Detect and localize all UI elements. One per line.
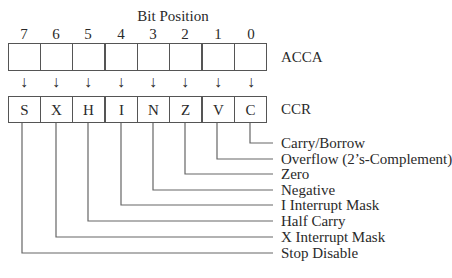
flag-label-zero: Zero [281,167,309,182]
flag-label-carry-borrow: Carry/Borrow [281,136,365,151]
leader-line-z [185,123,273,174]
flag-label-half-carry: Half Carry [281,214,346,229]
leader-line-v [217,123,273,159]
leader-line-h [88,123,273,221]
flag-label-x-interrupt-mask: X Interrupt Mask [281,230,385,245]
flag-label-negative: Negative [281,183,335,198]
leader-line-n [153,123,273,190]
leader-line-s [22,123,273,253]
flag-label-i-interrupt-mask: I Interrupt Mask [281,198,379,213]
flag-label-stop-disable: Stop Disable [281,246,358,261]
flag-label-overflow: Overflow (2’s-Complement) [281,152,452,167]
leader-line-c [250,123,273,143]
